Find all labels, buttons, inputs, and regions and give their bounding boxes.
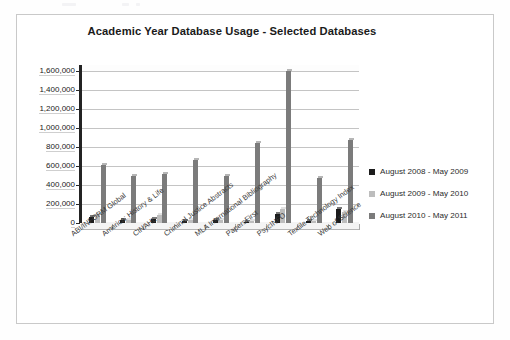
x-axis-tick [205,224,206,230]
y-axis-tick-label: 1,000,000 [39,123,75,133]
bar-face [95,214,100,223]
bar [218,220,223,223]
bar-face [286,71,291,223]
bar-face [89,217,94,223]
x-axis-tick [328,224,329,230]
bar [151,219,156,223]
bar-top-face [256,141,261,143]
bar-face [101,165,106,223]
x-axis-tick [266,224,267,230]
y-axis-tick-label: 1,600,000 [39,66,75,76]
bar [311,221,316,223]
bar-face [280,209,285,223]
bar-face [317,178,322,223]
bar-face [306,221,311,223]
plot-area [81,71,359,223]
bar-group [306,71,322,223]
y-axis-tick [76,90,80,91]
legend-item[interactable]: August 2009 - May 2010 [369,189,493,198]
scan-artifact [62,3,76,6]
bar [120,220,125,223]
bar [126,220,131,223]
plot-floor [81,222,359,230]
bar [280,209,285,223]
bar [286,71,291,223]
bar-face [224,176,229,223]
y-axis-tick [76,166,80,167]
bar [157,215,162,223]
bar-top-face [132,174,137,176]
bar-top-face [287,69,292,71]
bar [244,222,249,224]
bar [188,220,193,223]
bar-group [120,71,136,223]
bar-group [89,71,105,223]
y-axis-tick [76,147,80,148]
y-axis-tick [76,185,80,186]
bar-face [182,221,187,223]
legend-item[interactable]: August 2010 - May 2011 [369,211,493,220]
bar [101,165,106,223]
bar-face [131,176,136,223]
bar-face [120,220,125,223]
legend-swatch [369,213,375,219]
bar [182,221,187,223]
bar [342,212,347,223]
bar-face [348,140,353,223]
bar [336,209,341,223]
bar-group [244,71,260,223]
bar-face [336,209,341,223]
y-axis-tick-label: 600,000 [46,161,75,171]
bar [306,221,311,223]
y-axis-tick [76,223,80,224]
bar-top-face [194,158,199,160]
y-axis-tick-label: 800,000 [46,142,75,152]
bar [275,214,280,224]
y-axis-tick-label: 400,000 [46,180,75,190]
bar-group [275,71,291,223]
bar-face [151,219,156,223]
bar [213,220,218,223]
bar-face [126,220,131,223]
x-axis-tick [112,224,113,230]
bar [255,143,260,223]
bar [249,221,254,223]
legend-swatch [369,191,375,197]
legend-label: August 2009 - May 2010 [380,189,468,198]
bar [95,214,100,223]
bar-face [244,222,249,224]
bar [131,176,136,223]
y-axis-line [79,65,82,223]
bar-group [213,71,229,223]
bar-top-face [163,172,168,174]
chart-legend: August 2008 - May 2009August 2009 - May … [369,167,493,233]
bar [193,160,198,223]
bar-group [151,71,167,223]
bar-top-face [225,174,230,176]
legend-item[interactable]: August 2008 - May 2009 [369,167,493,176]
x-axis-tick [174,224,175,230]
bar-face [218,220,223,223]
y-axis-tick-label: 1,200,000 [39,104,75,114]
y-axis-tick-label: 0 [71,218,75,228]
y-axis-tick [76,128,80,129]
bar-face [193,160,198,223]
scan-artifact [122,3,129,6]
bar [317,178,322,223]
y-axis-tick-label: 200,000 [46,199,75,209]
screenshot-root: Academic Year Database Usage - Selected … [0,0,510,340]
legend-swatch [369,169,375,175]
y-axis-tick [76,204,80,205]
bar-face [162,174,167,223]
bar-top-face [349,138,354,140]
bar-face [275,214,280,224]
y-axis-tick-label: 1,400,000 [39,85,75,95]
chart-container: Academic Year Database Usage - Selected … [16,14,494,324]
legend-label: August 2008 - May 2009 [380,167,468,176]
bar-face [311,221,316,223]
bar-group [182,71,198,223]
bar-face [342,212,347,223]
x-axis-tick [235,224,236,230]
x-axis-tick [297,224,298,230]
bar [162,174,167,223]
